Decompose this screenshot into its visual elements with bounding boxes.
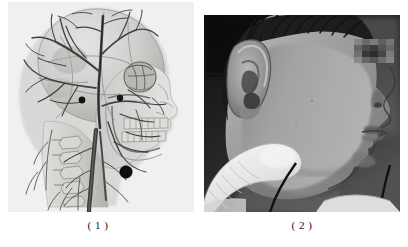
panel-2-caption: ( 2 ) bbox=[196, 219, 408, 231]
figure-panel-2: ( 2 ) bbox=[196, 0, 408, 247]
figure-panel-1: ( 1 ) bbox=[0, 0, 196, 247]
clinical-photograph-image bbox=[204, 15, 400, 212]
figure-panel-row: ( 1 ) bbox=[0, 0, 408, 247]
panel-1-caption: ( 1 ) bbox=[0, 219, 196, 231]
anatomical-illustration-image bbox=[8, 2, 194, 212]
